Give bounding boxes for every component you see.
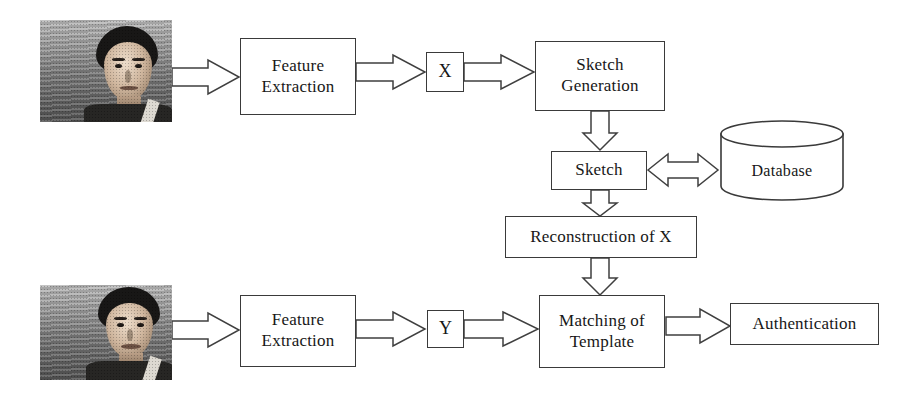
arrow-sketch-to-reconstruction bbox=[583, 190, 617, 216]
arrow-matching-to-authentication bbox=[666, 309, 730, 343]
input-photo-bottom bbox=[40, 285, 172, 380]
arrow-sketch-database-bidirectional bbox=[648, 154, 718, 186]
arrow-feature-to-y bbox=[356, 312, 425, 346]
node-feature-extraction-bottom: Feature Extraction bbox=[240, 295, 356, 367]
arrow-reconstruction-to-matching bbox=[583, 258, 617, 295]
authentication-label: Authentication bbox=[749, 314, 861, 335]
node-database: Database bbox=[718, 118, 846, 202]
arrow-feature-to-x bbox=[356, 55, 425, 89]
node-matching-of-template: Matching of Template bbox=[539, 295, 665, 368]
reconstruction-of-x-label: Reconstruction of X bbox=[526, 227, 676, 248]
node-sketch: Sketch bbox=[551, 151, 647, 190]
matching-of-template-label: Matching of Template bbox=[555, 311, 649, 352]
database-cylinder-top bbox=[721, 121, 843, 147]
sketch-generation-label: Sketch Generation bbox=[557, 55, 643, 96]
node-y-template: Y bbox=[427, 310, 464, 348]
node-x-template: X bbox=[426, 52, 464, 92]
node-feature-extraction-top: Feature Extraction bbox=[240, 38, 356, 115]
diagram-canvas: Feature Extraction X Sketch Generation S… bbox=[0, 0, 920, 395]
arrow-photo-to-feature-bottom bbox=[172, 313, 239, 347]
arrow-sketch-generation-to-sketch bbox=[583, 111, 617, 150]
node-sketch-generation: Sketch Generation bbox=[535, 41, 665, 111]
arrow-photo-to-feature-top bbox=[172, 60, 239, 94]
x-template-label: X bbox=[434, 61, 455, 83]
database-label: Database bbox=[718, 162, 846, 180]
arrow-x-to-sketch-generation bbox=[464, 55, 534, 89]
feature-extraction-bottom-label: Feature Extraction bbox=[258, 310, 339, 351]
node-reconstruction-of-x: Reconstruction of X bbox=[505, 216, 697, 258]
arrow-y-to-matching bbox=[464, 312, 538, 346]
y-template-label: Y bbox=[435, 318, 456, 340]
photo-grain-top bbox=[40, 20, 172, 122]
photo-grain-bottom bbox=[40, 285, 172, 380]
input-photo-top bbox=[40, 20, 172, 122]
sketch-label: Sketch bbox=[571, 160, 626, 181]
feature-extraction-top-label: Feature Extraction bbox=[258, 56, 339, 97]
node-authentication: Authentication bbox=[730, 303, 879, 345]
